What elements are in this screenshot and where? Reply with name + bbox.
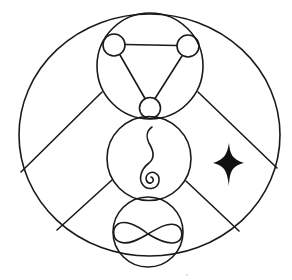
mystic-symbol-diagram [0,0,292,280]
lower-right-line [186,181,239,231]
triangle-icon [120,45,182,99]
infinity-icon [114,222,182,242]
four-point-star-icon [213,143,244,186]
node-top-right [177,35,199,57]
upper-left-line [21,92,102,172]
spiral-icon [141,127,160,188]
node-top-left [103,34,125,56]
upper-right-line [198,92,277,168]
lower-left-line [57,180,112,230]
speck-mark [186,274,188,276]
node-bottom [140,98,161,119]
top-circle [97,13,203,119]
